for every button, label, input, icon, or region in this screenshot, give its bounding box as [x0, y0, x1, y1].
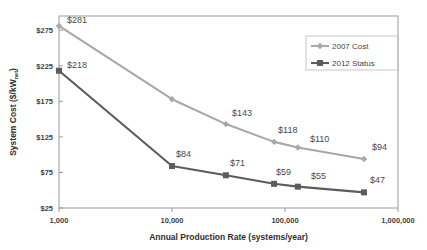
x-axis-tick-label: 1,000	[50, 216, 69, 225]
data-point-label: $281	[67, 15, 87, 25]
x-axis-tick-label: 100,000	[271, 216, 298, 225]
data-point-label: $218	[67, 60, 87, 70]
data-point-label: $94	[372, 142, 387, 152]
data-point-label: $143	[232, 108, 252, 118]
data-point-marker	[56, 68, 62, 74]
data-point-label: $71	[230, 158, 245, 168]
data-point-marker	[223, 121, 229, 127]
data-point-label: $84	[176, 149, 191, 159]
chart-container: $25$75$125$175$225$2751,00010,000100,000…	[0, 0, 427, 250]
svg-text:System Cost ($/kWnet): System Cost ($/kWnet)	[8, 68, 19, 156]
data-point-label: $110	[310, 134, 329, 144]
data-point-label: $59	[276, 167, 291, 177]
data-point-marker	[223, 172, 229, 178]
data-point-label: $55	[311, 171, 326, 181]
legend-label-2007-cost: 2007 Cost	[332, 42, 369, 51]
y-axis-tick-label: $125	[36, 133, 53, 142]
y-axis-tick-label: $275	[36, 26, 53, 35]
y-axis-tick-label: $25	[40, 204, 53, 213]
data-point-marker	[271, 181, 277, 187]
data-point-marker	[361, 189, 367, 195]
data-point-marker	[361, 156, 367, 162]
data-point-marker	[271, 139, 277, 145]
data-point-label: $47	[370, 175, 385, 185]
data-point-marker	[295, 144, 301, 150]
system-cost-line-chart: $25$75$125$175$225$2751,00010,000100,000…	[0, 0, 427, 250]
x-axis-title: Annual Production Rate (systems/year)	[149, 232, 308, 242]
x-axis-tick-label: 1,000,000	[381, 216, 414, 225]
y-axis-tick-label: $75	[40, 168, 53, 177]
data-point-marker	[295, 184, 301, 190]
data-point-label: $118	[278, 125, 297, 135]
data-point-marker	[169, 163, 175, 169]
legend-label-2012-status: 2012 Status	[332, 59, 375, 68]
y-axis-tick-label: $225	[36, 62, 53, 71]
x-axis-tick-label: 10,000	[161, 216, 184, 225]
legend-marker	[317, 60, 323, 66]
y-axis-title: System Cost ($/kWnet)	[8, 68, 19, 156]
y-axis-tick-label: $175	[36, 97, 53, 106]
